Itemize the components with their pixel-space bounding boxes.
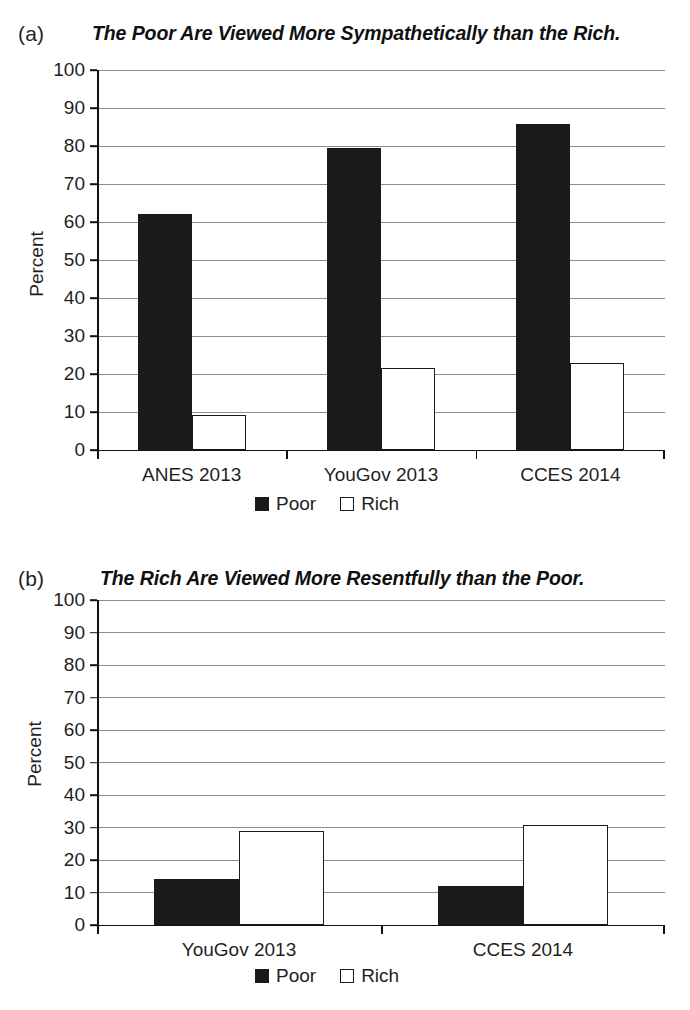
x-axis-tick-mark <box>663 925 665 934</box>
bar-rich-yougov-2013 <box>239 831 324 925</box>
y-axis-tick-label: 60 <box>25 719 85 741</box>
gridline <box>97 665 665 666</box>
y-axis-tick-label: 50 <box>25 249 85 271</box>
x-axis-tick-label: ANES 2013 <box>142 464 241 486</box>
gridline <box>97 108 665 109</box>
legend-item-rich: Rich <box>340 965 399 987</box>
y-axis-tick-mark <box>90 762 97 764</box>
y-axis-tick-mark <box>90 259 97 261</box>
chart-title-a: The Poor Are Viewed More Sympathetically… <box>92 22 620 45</box>
x-axis-tick-mark <box>476 450 478 459</box>
legend-item-poor: Poor <box>255 965 316 987</box>
x-axis-tick-mark <box>286 450 288 459</box>
x-axis-tick-mark <box>97 925 99 934</box>
legend-item-rich: Rich <box>340 493 399 515</box>
y-axis-tick-label: 100 <box>25 59 85 81</box>
y-axis-tick-mark <box>90 221 97 223</box>
legend-label-rich: Rich <box>361 493 399 515</box>
y-axis-tick-mark <box>90 632 97 634</box>
legend-label-poor: Poor <box>276 965 316 987</box>
bar-rich-yougov-2013 <box>381 368 435 450</box>
y-axis-tick-label: 70 <box>25 687 85 709</box>
gridline <box>97 762 665 763</box>
y-axis-tick-label: 20 <box>25 363 85 385</box>
y-axis-tick-mark <box>90 183 97 185</box>
y-axis-tick-label: 60 <box>25 211 85 233</box>
y-axis-tick-label: 50 <box>25 752 85 774</box>
y-axis-tick-label: 10 <box>25 882 85 904</box>
legend-item-poor: Poor <box>255 493 316 515</box>
y-axis-tick-label: 40 <box>25 784 85 806</box>
y-axis-tick-label: 90 <box>25 622 85 644</box>
plot-area-a: 0102030405060708090100ANES 2013YouGov 20… <box>97 70 665 450</box>
gridline <box>97 697 665 698</box>
y-axis-tick-label: 100 <box>25 589 85 611</box>
y-axis-tick-label: 90 <box>25 97 85 119</box>
gridline <box>97 730 665 731</box>
y-axis-tick-mark <box>90 664 97 666</box>
legend-b: Poor Rich <box>255 965 412 987</box>
bar-rich-anes-2013 <box>192 415 246 450</box>
legend-a: Poor Rich <box>255 493 412 515</box>
y-axis-tick-mark <box>90 449 97 451</box>
y-axis-tick-mark <box>90 335 97 337</box>
x-axis-tick-mark <box>97 450 99 459</box>
panel-label-a: (a) <box>18 22 44 46</box>
legend-label-poor: Poor <box>276 493 316 515</box>
chart-panel-a: (a) The Poor Are Viewed More Sympathetic… <box>0 0 690 525</box>
y-axis-tick-label: 30 <box>25 817 85 839</box>
y-axis-tick-label: 10 <box>25 401 85 423</box>
x-axis-tick-mark <box>381 925 383 934</box>
chart-title-b: The Rich Are Viewed More Resentfully tha… <box>100 567 584 590</box>
legend-swatch-rich-icon <box>340 497 354 511</box>
chart-panel-b: (b) The Rich Are Viewed More Resentfully… <box>0 545 690 1010</box>
gridline <box>97 146 665 147</box>
y-axis-line <box>97 70 99 450</box>
legend-swatch-rich-icon <box>340 969 354 983</box>
bar-poor-anes-2013 <box>138 214 192 450</box>
gridline <box>97 70 665 71</box>
x-axis-tick-label: CCES 2014 <box>473 939 573 961</box>
bar-poor-yougov-2013 <box>154 879 239 925</box>
x-axis-tick-label: YouGov 2013 <box>182 939 296 961</box>
y-axis-tick-mark <box>90 297 97 299</box>
y-axis-tick-label: 80 <box>25 654 85 676</box>
y-axis-tick-mark <box>90 69 97 71</box>
bar-poor-cces-2014 <box>516 124 570 450</box>
x-axis-tick-mark <box>663 450 665 459</box>
bar-rich-cces-2014 <box>570 363 624 450</box>
y-axis-tick-mark <box>90 859 97 861</box>
y-axis-tick-mark <box>90 145 97 147</box>
y-axis-tick-mark <box>90 107 97 109</box>
x-axis-tick-label: YouGov 2013 <box>324 464 438 486</box>
gridline <box>97 184 665 185</box>
y-axis-tick-mark <box>90 599 97 601</box>
legend-label-rich: Rich <box>361 965 399 987</box>
y-axis-tick-mark <box>90 794 97 796</box>
gridline <box>97 600 665 601</box>
y-axis-tick-label: 70 <box>25 173 85 195</box>
y-axis-tick-label: 30 <box>25 325 85 347</box>
y-axis-tick-label: 0 <box>25 439 85 461</box>
y-axis-tick-mark <box>90 729 97 731</box>
x-axis-tick-label: CCES 2014 <box>520 464 620 486</box>
bar-poor-yougov-2013 <box>327 148 381 450</box>
y-axis-tick-mark <box>90 373 97 375</box>
panel-label-b: (b) <box>18 567 44 591</box>
bar-poor-cces-2014 <box>438 886 523 925</box>
plot-area-b: 0102030405060708090100YouGov 2013CCES 20… <box>97 600 665 925</box>
gridline <box>97 632 665 633</box>
y-axis-tick-mark <box>90 411 97 413</box>
legend-swatch-poor-icon <box>255 497 269 511</box>
gridline <box>97 795 665 796</box>
bar-rich-cces-2014 <box>523 825 608 925</box>
y-axis-tick-label: 80 <box>25 135 85 157</box>
y-axis-tick-mark <box>90 924 97 926</box>
legend-swatch-poor-icon <box>255 969 269 983</box>
y-axis-tick-label: 20 <box>25 849 85 871</box>
y-axis-tick-label: 40 <box>25 287 85 309</box>
y-axis-tick-mark <box>90 697 97 699</box>
y-axis-line <box>97 600 99 925</box>
y-axis-tick-mark <box>90 892 97 894</box>
y-axis-tick-label: 0 <box>25 914 85 936</box>
